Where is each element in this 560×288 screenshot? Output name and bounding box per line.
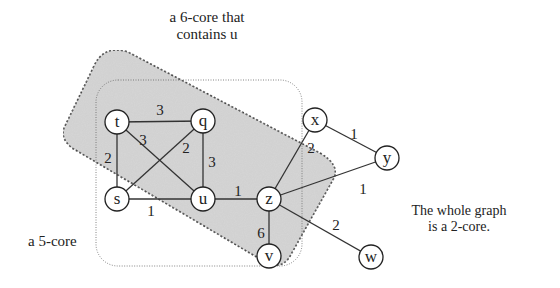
- node-q: q: [191, 109, 215, 133]
- edge-weight-q-u: 3: [208, 154, 216, 170]
- six-core-caption-line2: contains u: [147, 26, 267, 43]
- graph-diagram: 332231121621 tqsuzvxyw: [0, 0, 560, 288]
- five-core-caption: a 5-core: [28, 233, 77, 250]
- edge-weight-u-z: 1: [234, 183, 242, 199]
- whole-graph-caption: The whole graph is a 2-core.: [400, 203, 518, 235]
- edge-weight-z-w: 2: [332, 217, 340, 233]
- node-label: t: [115, 112, 120, 131]
- node-w: w: [359, 245, 383, 269]
- node-y: y: [375, 146, 399, 170]
- edge-weight-x-y: 1: [350, 126, 358, 142]
- edge-weight-s-u: 1: [147, 203, 155, 219]
- node-u: u: [191, 187, 215, 211]
- edge-weight-t-u: 3: [139, 132, 147, 148]
- whole-graph-caption-line1: The whole graph: [400, 203, 518, 219]
- node-label: z: [265, 189, 273, 208]
- node-x: x: [303, 108, 327, 132]
- edge-weight-z-v: 6: [257, 225, 265, 241]
- edge-weight-t-q: 3: [156, 102, 164, 118]
- edge-weight-t-s: 2: [104, 150, 112, 166]
- six-core-caption-line1: a 6-core that: [147, 9, 267, 26]
- node-z: z: [257, 187, 281, 211]
- six-core-caption: a 6-core that contains u: [147, 9, 267, 43]
- node-label: x: [311, 110, 320, 129]
- edge-weight-z-x: 2: [307, 140, 315, 156]
- node-s: s: [105, 187, 129, 211]
- whole-graph-caption-line2: is a 2-core.: [400, 219, 518, 235]
- node-label: v: [265, 246, 274, 265]
- node-label: y: [383, 148, 392, 167]
- edge-weight-z-y: 1: [359, 181, 367, 197]
- node-label: w: [365, 247, 378, 266]
- node-label: u: [199, 189, 208, 208]
- node-label: q: [199, 111, 208, 130]
- node-label: s: [114, 189, 121, 208]
- edge-weight-q-s: 2: [182, 140, 190, 156]
- node-t: t: [105, 110, 129, 134]
- node-v: v: [257, 244, 281, 268]
